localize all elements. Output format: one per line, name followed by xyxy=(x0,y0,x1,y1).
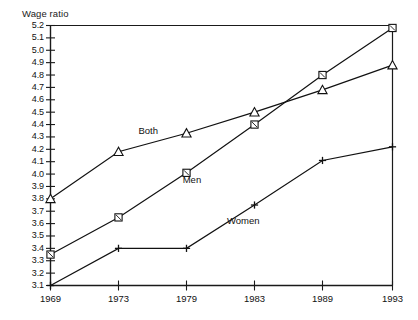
data-point-square xyxy=(251,121,258,128)
data-point-square xyxy=(183,169,190,176)
series-line xyxy=(51,147,393,286)
data-series xyxy=(46,24,397,289)
data-point-triangle xyxy=(388,61,397,69)
series-both xyxy=(46,61,397,203)
series-line xyxy=(51,65,393,199)
data-point-plus xyxy=(47,282,54,289)
data-point-plus xyxy=(251,201,258,208)
data-point-plus xyxy=(319,157,326,164)
series-line xyxy=(51,28,393,255)
data-point-triangle xyxy=(318,85,327,93)
data-point-triangle xyxy=(250,108,259,116)
data-point-plus xyxy=(389,143,396,150)
data-point-square xyxy=(47,251,54,258)
data-point-plus xyxy=(183,245,190,252)
plot-area xyxy=(0,0,418,320)
data-point-square xyxy=(319,71,326,78)
axes xyxy=(46,26,393,291)
data-point-plus xyxy=(115,245,122,252)
series-men xyxy=(47,24,396,258)
data-point-square xyxy=(115,214,122,221)
wage-ratio-chart: Wage ratio 5.25.15.04.94.84.74.64.54.44.… xyxy=(0,0,418,320)
data-point-square xyxy=(389,24,396,31)
